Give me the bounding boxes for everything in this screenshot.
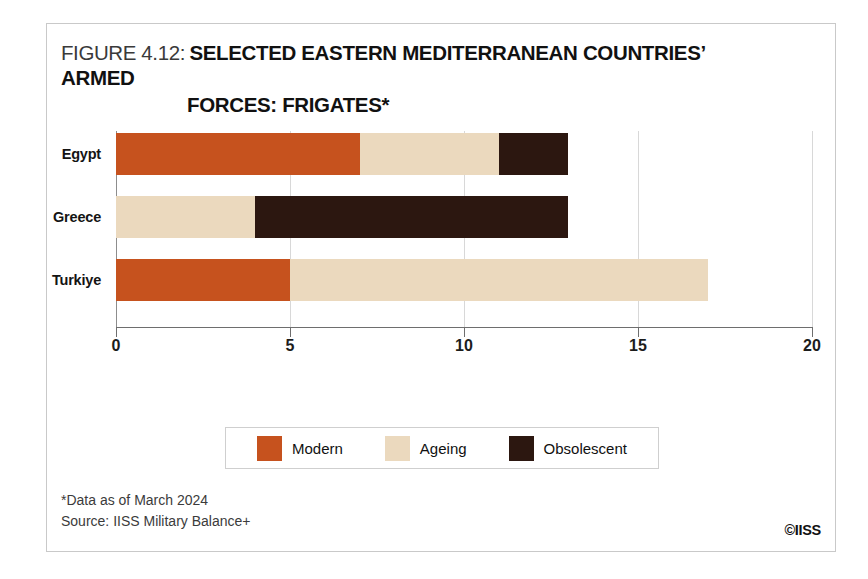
legend-item[interactable]: Modern <box>257 436 343 461</box>
source-note: Source: IISS Military Balance+ <box>61 511 250 532</box>
plot-area: EgyptGreeceTurkiye 05101520 <box>116 131 812 327</box>
x-tick-mark <box>116 327 117 337</box>
iiss-copyright-logo: ©IISS <box>784 522 821 538</box>
legend-label: Modern <box>292 440 343 457</box>
x-tick-mark <box>638 327 639 337</box>
bar-segment[interactable] <box>290 259 708 301</box>
bar-segment[interactable] <box>116 133 360 175</box>
category-label: Egypt <box>0 133 101 175</box>
figure-container: FIGURE 4.12: SELECTED EASTERN MEDITERRAN… <box>46 23 836 552</box>
bar-segment[interactable] <box>116 196 255 238</box>
category-label: Turkiye <box>0 259 101 301</box>
x-tick-label: 5 <box>260 337 320 355</box>
bar-row[interactable] <box>116 196 812 238</box>
chart-region: EgyptGreeceTurkiye 05101520 <box>47 24 837 553</box>
x-tick-mark <box>812 327 813 337</box>
legend-swatch-icon <box>385 436 410 461</box>
x-tick-label: 10 <box>434 337 494 355</box>
legend-label: Ageing <box>420 440 467 457</box>
legend-item[interactable]: Obsolescent <box>509 436 627 461</box>
legend-label: Obsolescent <box>544 440 627 457</box>
legend-item[interactable]: Ageing <box>385 436 467 461</box>
legend-swatch-icon <box>509 436 534 461</box>
bar-segment[interactable] <box>499 133 569 175</box>
x-tick-label: 20 <box>782 337 842 355</box>
category-label: Greece <box>0 196 101 238</box>
bar-segment[interactable] <box>255 196 568 238</box>
figure-footnotes: *Data as of March 2024 Source: IISS Mili… <box>61 490 250 532</box>
data-date-note: *Data as of March 2024 <box>61 490 250 511</box>
bar-segment[interactable] <box>360 133 499 175</box>
bar-segment[interactable] <box>116 259 290 301</box>
gridline <box>812 131 813 327</box>
bar-row[interactable] <box>116 259 812 301</box>
x-tick-label: 15 <box>608 337 668 355</box>
x-tick-mark <box>464 327 465 337</box>
bar-row[interactable] <box>116 133 812 175</box>
legend-swatch-icon <box>257 436 282 461</box>
chart-legend: ModernAgeingObsolescent <box>225 427 659 469</box>
x-tick-label: 0 <box>86 337 146 355</box>
x-tick-mark <box>290 327 291 337</box>
